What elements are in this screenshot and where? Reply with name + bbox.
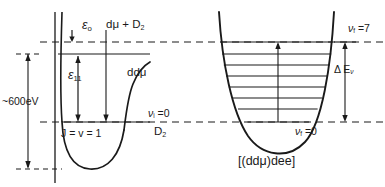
energy-scale-arrowhead-down [25, 161, 30, 169]
delta-e-symbol: Δ E [334, 63, 350, 75]
initial-vibrational-label: νi =0 [148, 108, 170, 120]
delta-e-arrowhead-up [342, 42, 347, 49]
epsilon-0-arrowhead [69, 37, 74, 42]
nu-i-value: =0 [155, 107, 170, 119]
well-center-arrowhead [275, 42, 280, 49]
epsilon-11-arrowhead-down [75, 115, 80, 123]
delta-e-subscript: ν [350, 68, 353, 75]
reactants-label: dμ + D2 [106, 19, 144, 32]
complex-molecule-label: [(ddμ)dee] [238, 155, 295, 168]
ddmu-repulsive-wall [61, 12, 62, 122]
epsilon-11-arrowhead-up [75, 56, 80, 63]
reactants-text: dμ + D [106, 18, 140, 30]
epsilon-11-subscript: 11 [74, 74, 82, 83]
final-vibrational-top-label: νf =7 [348, 23, 370, 35]
target-molecule-label: D2 [154, 126, 166, 139]
transition-arrowhead [103, 115, 108, 123]
energy-level-diagram [0, 0, 385, 187]
epsilon-11-label: ε11 [68, 69, 82, 82]
delta-e-label: Δ Eν [334, 64, 354, 76]
bound-state-label: J = v = 1 [61, 128, 101, 139]
delta-e-arrowhead-down [342, 115, 347, 122]
ddmu-curve-label: ddμ [127, 67, 146, 79]
reactants-subscript: 2 [140, 24, 144, 32]
epsilon-0-subscript: o [88, 24, 92, 33]
energy-scale-arrowhead-up [25, 54, 30, 61]
nu-f-bottom-value: =0 [302, 125, 317, 137]
epsilon-0-label: εo [82, 19, 92, 32]
final-vibrational-bottom-label: νf =0 [295, 126, 317, 138]
d2-subscript: 2 [162, 131, 166, 139]
energy-scale-label: ~600eV [2, 96, 39, 107]
nu-f-top-value: =7 [355, 22, 370, 34]
